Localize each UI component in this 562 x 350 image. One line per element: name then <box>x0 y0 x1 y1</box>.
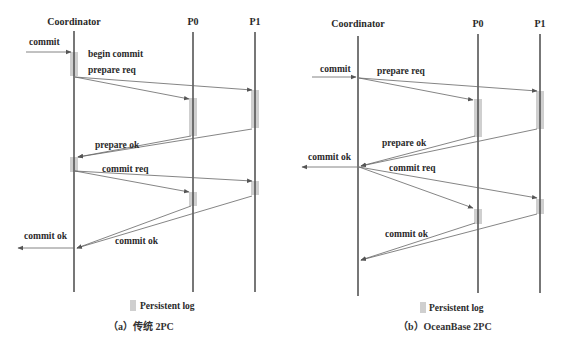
panel-b-oceanbase-2pc: Coordinator P0 P1 commit prepare req pre… <box>302 18 546 332</box>
panel-a-traditional-2pc: Coordinator P0 P1 commit begin commit pr… <box>18 16 261 332</box>
participant-coordinator-label: Coordinator <box>331 18 385 29</box>
legend-swatch-icon <box>130 300 136 311</box>
participant-p1-label: P1 <box>249 16 260 27</box>
legend-swatch-icon <box>420 302 426 313</box>
label-commit-req: commit req <box>102 164 149 174</box>
label-begin-commit: begin commit <box>88 49 144 59</box>
label-commit-ok-client: commit ok <box>308 152 352 162</box>
label-commit: commit <box>320 64 351 74</box>
label-commit-ok-participants: commit ok <box>385 229 429 239</box>
arrow-commit-req-p1 <box>359 167 537 198</box>
label-prepare-req: prepare req <box>88 65 136 75</box>
label-commit-req: commit req <box>389 163 436 173</box>
participant-p1-label: P1 <box>534 18 545 29</box>
arrow-commit-req-p0 <box>359 167 473 208</box>
label-prepare-ok: prepare ok <box>382 138 427 148</box>
caption-b: （b）OceanBase 2PC <box>398 320 492 332</box>
arrow-commit-ok-p1 <box>77 196 252 248</box>
arrow-prepare-req-p0 <box>75 77 189 99</box>
two-phase-commit-diagram: Coordinator P0 P1 commit begin commit pr… <box>0 0 562 350</box>
label-commit-ok-participants: commit ok <box>115 236 159 246</box>
label-commit-ok-client: commit ok <box>24 231 68 241</box>
label-prepare-ok: prepare ok <box>95 140 140 150</box>
arrow-prepare-req-p0 <box>359 78 473 100</box>
arrow-prepare-req-p1 <box>75 77 252 90</box>
legend-persistent-log: Persistent log <box>140 301 195 311</box>
legend-persistent-log: Persistent log <box>429 303 484 313</box>
participant-coordinator-label: Coordinator <box>47 16 101 27</box>
label-prepare-req: prepare req <box>377 66 425 76</box>
arrow-prepare-req-p1 <box>359 78 537 91</box>
caption-a: （a）传统 2PC <box>108 320 174 332</box>
label-commit: commit <box>29 37 60 47</box>
participant-p0-label: P0 <box>187 16 198 27</box>
participant-p0-label: P0 <box>472 18 483 29</box>
